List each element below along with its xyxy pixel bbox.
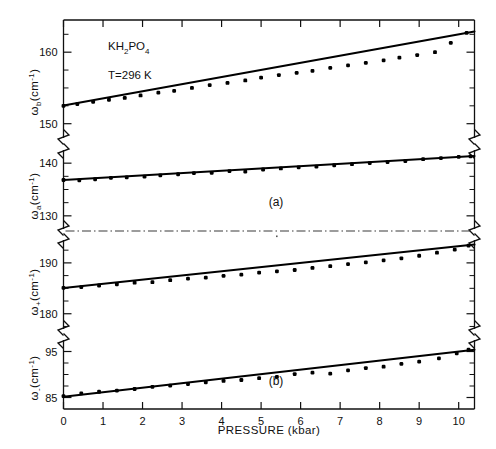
- panel-b-label: (b): [269, 374, 284, 388]
- panel-a-label: (a): [269, 195, 284, 209]
- svg-text:8: 8: [377, 415, 383, 427]
- yaxis-title-omega_minus: ω-(cm-1): [27, 356, 43, 401]
- svg-text:190: 190: [39, 257, 57, 269]
- svg-text:180: 180: [39, 308, 57, 320]
- svg-text:7: 7: [337, 415, 343, 427]
- svg-text:1: 1: [100, 415, 106, 427]
- svg-text:10: 10: [453, 415, 465, 427]
- svg-text:3: 3: [179, 415, 185, 427]
- svg-text:ω-(cm-1): ω-(cm-1): [27, 356, 43, 401]
- data-layer: [62, 31, 475, 398]
- xaxis-title: PRESSURE (kbar): [218, 424, 321, 436]
- svg-text:9: 9: [416, 415, 422, 427]
- panel-divider: [66, 231, 473, 237]
- svg-text:0: 0: [60, 415, 66, 427]
- svg-text:150: 150: [39, 118, 57, 130]
- svg-text:95: 95: [45, 346, 57, 358]
- yaxis-title-omega_b: ωb(cm-1): [27, 69, 43, 116]
- svg-text:140: 140: [39, 157, 57, 169]
- multipanel-scatter-chart: 150160ωb(cm-1)130140ωa(cm-1)180190ω+(cm-…: [0, 0, 496, 449]
- svg-text:85: 85: [45, 392, 57, 404]
- svg-text:160: 160: [39, 46, 57, 58]
- temperature-label: T=296 K: [108, 69, 152, 81]
- figure-container: 150160ωb(cm-1)130140ωa(cm-1)180190ω+(cm-…: [0, 0, 496, 449]
- svg-text:ωb(cm-1): ωb(cm-1): [27, 69, 43, 116]
- svg-text:130: 130: [39, 210, 57, 222]
- compound-label: KH2PO4: [108, 40, 150, 56]
- svg-text:2: 2: [139, 415, 145, 427]
